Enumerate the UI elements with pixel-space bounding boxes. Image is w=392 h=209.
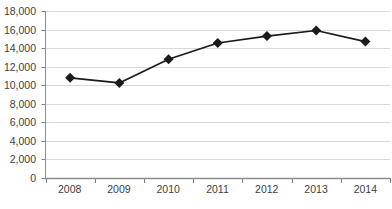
x-axis-tick-labels: 2008200920102011201220132014 bbox=[45, 182, 390, 198]
x-tick-label: 2010 bbox=[144, 182, 193, 198]
data-point-marker bbox=[360, 37, 370, 47]
x-tick-label: 2011 bbox=[193, 182, 242, 198]
x-tick-label: 2012 bbox=[242, 182, 291, 198]
data-markers bbox=[65, 25, 370, 87]
x-tick-label: 2013 bbox=[291, 182, 340, 198]
plot-area bbox=[0, 0, 392, 209]
data-point-marker bbox=[262, 31, 272, 41]
data-point-marker bbox=[311, 25, 321, 35]
data-point-marker bbox=[65, 73, 75, 83]
figure-caption bbox=[0, 201, 392, 209]
x-tick-label: 2009 bbox=[94, 182, 143, 198]
data-point-marker bbox=[114, 78, 124, 88]
x-tick-label: 2014 bbox=[341, 182, 390, 198]
data-point-marker bbox=[213, 38, 223, 48]
x-tick-label: 2008 bbox=[45, 182, 94, 198]
data-point-marker bbox=[164, 54, 174, 64]
line-chart: 02,0004,0006,0008,00010,00012,00014,0001… bbox=[0, 0, 392, 209]
y-gridlines bbox=[42, 12, 391, 179]
